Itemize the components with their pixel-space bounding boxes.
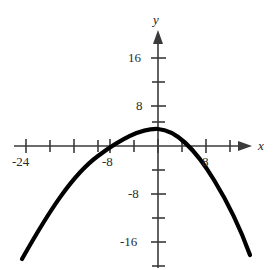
- x-tick-label-8: 8: [202, 155, 209, 168]
- coordinate-plane: [0, 0, 278, 270]
- graph-figure: y x -24 -8 8 16 8 -8 -16: [0, 0, 278, 270]
- x-tick-label-neg24: -24: [12, 155, 29, 168]
- x-tick-label-neg8: -8: [102, 155, 113, 168]
- y-tick-label-neg16: -16: [120, 235, 137, 248]
- x-axis-name: x: [258, 139, 264, 152]
- y-tick-label-8: 8: [136, 99, 143, 112]
- y-tick-label-16: 16: [128, 51, 141, 64]
- y-tick-label-neg8: -8: [128, 187, 139, 200]
- y-axis-name: y: [153, 13, 159, 26]
